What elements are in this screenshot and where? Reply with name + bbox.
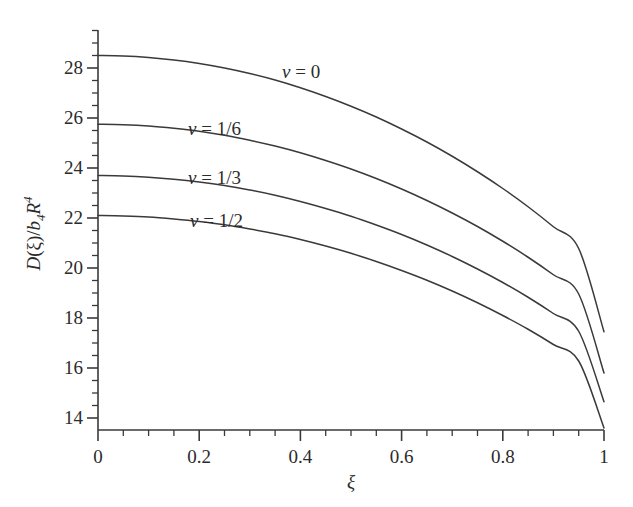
x-tick-label: 0.4 (270, 447, 330, 466)
y-tick-label: 18 (64, 308, 83, 327)
y-axis-title-b: b (23, 221, 44, 231)
y-tick-label: 26 (64, 108, 83, 127)
curve-series-3 (98, 216, 604, 429)
curve-label-value: = 1/6 (196, 118, 241, 139)
axis-lines (98, 30, 604, 430)
y-tick-label: 22 (64, 208, 83, 227)
curve-label-0: v = 0 (282, 62, 320, 81)
x-tick-label: 0 (68, 447, 128, 466)
y-axis-title-r: R (23, 203, 44, 215)
y-axis-title-d: D (23, 257, 44, 271)
x-tick-label: 0.8 (473, 447, 533, 466)
x-axis-title: ξ (321, 472, 381, 491)
curve-label-value: = 1/2 (198, 210, 243, 231)
y-tick-label: 14 (64, 408, 83, 427)
figure-container: 1416182022242628 00.20.40.60.81 v = 0v =… (0, 0, 633, 507)
y-axis-title-arg: (ξ)/ (23, 230, 44, 256)
curve-label-1: v = 1/6 (188, 119, 241, 138)
y-tick-label: 20 (64, 258, 83, 277)
y-axis-title: D(ξ)/b4R4 (22, 159, 47, 309)
y-tick-label: 16 (64, 358, 83, 377)
x-axis-minor-ticks (123, 430, 578, 436)
curve-series-0 (98, 56, 604, 332)
curve-series-2 (98, 176, 604, 402)
x-tick-label: 1 (574, 447, 633, 466)
y-axis-title-r-sup: 4 (20, 196, 35, 202)
curve-label-2: v = 1/3 (188, 168, 241, 187)
curve-series-1 (98, 124, 604, 373)
data-curves (98, 56, 604, 429)
y-tick-label: 28 (64, 58, 83, 77)
x-tick-label: 0.6 (372, 447, 432, 466)
y-axis-title-b-sub: 4 (33, 215, 48, 221)
y-tick-label: 24 (64, 158, 83, 177)
x-tick-label: 0.2 (169, 447, 229, 466)
curve-label-value: = 0 (290, 61, 320, 82)
curve-label-value: = 1/3 (196, 167, 241, 188)
curve-label-3: v = 1/2 (190, 211, 243, 230)
